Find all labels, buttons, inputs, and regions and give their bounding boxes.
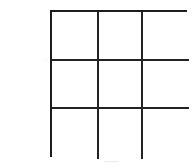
grid-cell-r2c2[interactable] bbox=[99, 61, 143, 109]
grid-cell-r2c1[interactable] bbox=[52, 61, 99, 109]
grid-cell-r1c2[interactable] bbox=[99, 12, 143, 61]
scan-artifact bbox=[45, 60, 48, 61]
grid-cell-r1c1[interactable] bbox=[52, 12, 99, 61]
grid-cell-r3c1[interactable] bbox=[52, 109, 99, 159]
grid-cell-r3c3[interactable] bbox=[143, 109, 189, 159]
scan-artifact bbox=[104, 161, 118, 162]
three-by-three-grid bbox=[50, 10, 187, 157]
grid-cell-r1c3[interactable] bbox=[143, 12, 189, 61]
grid-cell-r3c2[interactable] bbox=[99, 109, 143, 159]
grid-cell-r2c3[interactable] bbox=[143, 61, 189, 109]
page-canvas bbox=[0, 0, 193, 168]
